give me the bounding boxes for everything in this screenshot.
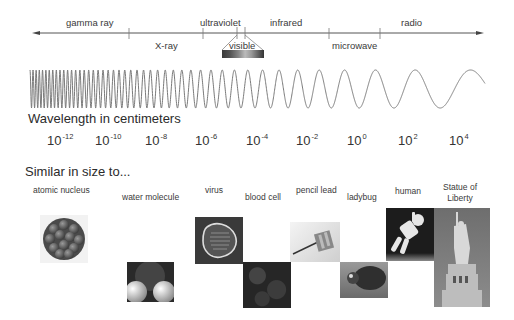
item-label-water-molecule: water molecule: [122, 192, 179, 203]
statue-of-liberty-image: [434, 208, 490, 307]
human-astronaut-image: [386, 208, 434, 261]
band-label-visible: visible: [229, 40, 255, 51]
item-label-statue-of-liberty: Statue of Liberty: [440, 182, 480, 204]
wavelength-tick: 10-10: [95, 132, 121, 148]
band-label-x-ray: X-ray: [155, 40, 178, 51]
item-label-human: human: [395, 186, 421, 197]
band-label-ultraviolet: ultraviolet: [200, 17, 241, 28]
atomic-nucleus-image: [40, 215, 88, 263]
wavelength-tick: 102: [398, 132, 418, 148]
band-label-infrared: infrared: [270, 17, 302, 28]
item-label-ladybug: ladybug: [347, 192, 377, 203]
wavelength-tick: 100: [347, 132, 367, 148]
wavelength-tick: 104: [449, 132, 469, 148]
band-label-microwave: microwave: [332, 40, 377, 51]
water-molecule-image: [127, 262, 174, 302]
item-label-pencil-lead: pencil lead: [296, 185, 337, 196]
virus-image: [195, 217, 243, 264]
wavelength-tick: 10-6: [195, 132, 217, 148]
ladybug-image: [340, 262, 388, 298]
wavelength-tick: 10-12: [47, 132, 73, 148]
item-label-virus: virus: [205, 185, 223, 196]
item-label-blood-cell: blood cell: [245, 192, 281, 203]
wavelength-title: Wavelength in centimeters: [28, 111, 181, 126]
comparison-title: Similar in size to...: [25, 164, 130, 179]
pencil-lead-image: [290, 222, 340, 262]
wavelength-tick: 10-8: [145, 132, 167, 148]
band-label-radio: radio: [401, 17, 422, 28]
blood-cell-image: [243, 262, 291, 308]
visible-spectrum-bar: [222, 50, 264, 58]
wavelength-tick: 10-2: [296, 132, 318, 148]
band-label-gamma-ray: gamma ray: [66, 17, 114, 28]
wavelength-tick: 10-4: [246, 132, 268, 148]
item-label-atomic-nucleus: atomic nucleus: [33, 185, 90, 196]
